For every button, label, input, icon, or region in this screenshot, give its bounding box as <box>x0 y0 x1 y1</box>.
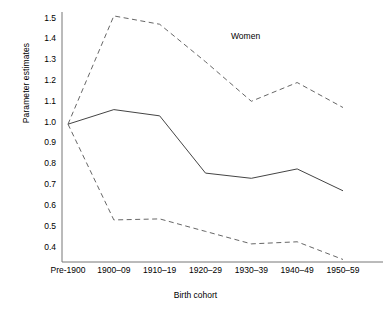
y-tick-label: 0.9 <box>26 138 56 147</box>
y-tick-label: 1.5 <box>26 14 56 23</box>
x-tick-label: 1950–59 <box>315 266 371 275</box>
series-line-1 <box>68 110 343 191</box>
y-tick-label: 1.0 <box>26 118 56 127</box>
chart-axes <box>62 12 383 262</box>
series-line-2 <box>68 124 343 259</box>
y-tick-label: 0.7 <box>26 180 56 189</box>
y-tick-label: 0.8 <box>26 159 56 168</box>
y-tick-label: 0.4 <box>26 243 56 252</box>
chart-series-group <box>68 16 343 260</box>
y-tick-label: 0.5 <box>26 222 56 231</box>
y-tick-label: 1.1 <box>26 97 56 106</box>
chart-container: Parameter estimates Birth cohort 1.51.41… <box>0 0 391 314</box>
y-tick-label: 1.2 <box>26 76 56 85</box>
y-tick-label: 1.4 <box>26 34 56 43</box>
chart-annotation-women: Women <box>231 31 260 41</box>
series-line-0 <box>68 16 343 124</box>
y-tick-label: 0.6 <box>26 201 56 210</box>
y-tick-label: 1.3 <box>26 55 56 64</box>
x-axis-title: Birth cohort <box>0 290 391 300</box>
